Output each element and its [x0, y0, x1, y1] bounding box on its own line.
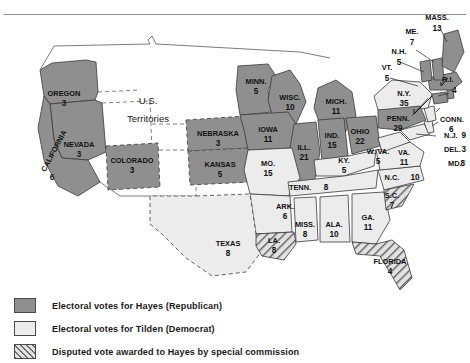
state-maine: [442, 30, 464, 72]
label-arkansas-name: ARK.: [276, 202, 294, 211]
label-connecticut-votes: 6: [449, 125, 454, 134]
label-tennessee-name: TENN.: [289, 183, 311, 192]
label-arkansas-votes: 6: [283, 212, 288, 221]
label-vermont-name: VT.: [382, 63, 393, 72]
label-michigan-name: MICH.: [326, 97, 347, 106]
label-missouri-votes: 15: [263, 169, 273, 178]
label-pennsylvania-name: PENN.: [387, 114, 410, 123]
legend-swatch-disputed: [14, 344, 36, 359]
territories-annotation: U.S. Territories: [127, 95, 169, 124]
label-colorado-votes: 3: [130, 166, 135, 175]
label-rhode-island-name: R.I.: [442, 75, 454, 84]
legend-row-hayes: Electoral votes for Hayes (Republican): [14, 296, 454, 315]
label-nebraska-votes: 3: [216, 139, 221, 148]
label-massachusetts-votes: 13: [432, 24, 442, 33]
label-iowa-votes: 11: [264, 135, 273, 144]
label-iowa-name: IOWA: [258, 125, 278, 134]
label-vermont-votes: 5: [385, 74, 390, 83]
label-louisiana-name: LA.: [268, 236, 280, 245]
label-delaware-name: DEL.: [444, 145, 461, 154]
label-nevada-votes: 3: [77, 150, 82, 159]
label-wisconsin-votes: 10: [285, 103, 295, 112]
label-maryland-votes: 8: [460, 159, 465, 168]
legend-label-disputed: Disputed vote awarded to Hayes by specia…: [52, 347, 299, 357]
territories-line1: U.S.: [139, 95, 158, 106]
label-georgia-name: GA.: [361, 213, 374, 222]
territories-line2: Territories: [127, 113, 169, 124]
label-alabama-votes: 10: [329, 230, 339, 239]
label-wisconsin-name: WISC.: [279, 93, 300, 102]
label-maine-votes: 7: [410, 38, 415, 47]
label-virginia-votes: 11: [400, 158, 409, 167]
label-new-york-name: N.Y.: [397, 89, 411, 98]
label-virginia-name: VA.: [398, 148, 410, 157]
map-legend: Electoral votes for Hayes (Republican) E…: [14, 296, 454, 363]
label-indiana-votes: 15: [327, 141, 337, 150]
label-nebraska-name: NEBRASKA: [197, 129, 240, 138]
label-kentucky-name: KY.: [338, 156, 350, 165]
label-delaware-votes: 3: [461, 145, 466, 154]
label-oregon-votes: 3: [62, 99, 67, 108]
label-indiana-name: IND.: [325, 131, 340, 140]
label-louisiana-votes: 8: [272, 246, 277, 255]
label-kentucky-votes: 5: [342, 166, 347, 175]
label-connecticut-name: CONN.: [440, 115, 464, 124]
legend-label-tilden: Electoral votes for Tilden (Democrat): [52, 324, 215, 334]
label-massachusetts-name: MASS.: [425, 13, 448, 22]
legend-row-disputed: Disputed vote awarded to Hayes by specia…: [14, 342, 454, 361]
label-rhode-island-votes: 4: [452, 86, 457, 95]
label-florida-name: FLORIDA: [374, 257, 408, 266]
legend-row-tilden: Electoral votes for Tilden (Democrat): [14, 319, 454, 338]
label-minnesota-name: MINN.: [246, 77, 267, 86]
label-west-virginia-votes: 5: [376, 157, 381, 166]
label-ohio-name: OHIO: [351, 127, 370, 136]
legend-swatch-hayes: [14, 298, 36, 313]
label-illinois-name: ILL.: [297, 143, 310, 152]
label-mississippi-name: MISS.: [295, 220, 315, 229]
label-new-york-votes: 35: [399, 99, 409, 108]
label-pennsylvania-votes: 29: [393, 124, 403, 133]
label-oregon-name: OREGON: [48, 89, 81, 98]
label-south-carolina-name: S.C.: [385, 191, 399, 200]
label-maine-name: ME.: [405, 27, 418, 36]
label-missouri-name: MO.: [261, 159, 275, 168]
label-mississippi-votes: 8: [303, 230, 308, 239]
label-california-votes: 6: [50, 173, 55, 182]
label-west-virginia-name: W. VA.: [367, 147, 389, 156]
label-texas-name: TEXAS: [216, 239, 241, 248]
label-alabama-name: ALA.: [325, 220, 342, 229]
legend-swatch-tilden: [14, 321, 36, 336]
label-colorado-name: COLORADO: [110, 156, 153, 165]
label-tennessee-votes: 8: [324, 183, 329, 192]
label-nevada-name: NEVADA: [64, 140, 95, 149]
label-georgia-votes: 11: [364, 223, 373, 232]
label-new-jersey-votes: 9: [461, 131, 466, 140]
label-north-carolina-votes: 10: [410, 173, 420, 182]
label-north-carolina-name: N.C.: [385, 173, 400, 182]
label-texas-votes: 8: [226, 249, 231, 258]
label-ohio-votes: 22: [355, 137, 365, 146]
state-texas: [150, 194, 264, 276]
label-illinois-votes: 21: [299, 153, 309, 162]
legend-label-hayes: Electoral votes for Hayes (Republican): [52, 301, 222, 311]
label-new-hampshire-name: N.H.: [392, 47, 407, 56]
label-new-hampshire-votes: 5: [397, 58, 402, 67]
label-south-carolina-votes: 7: [390, 201, 395, 210]
label-florida-votes: 4: [388, 267, 393, 276]
label-kansas-votes: 5: [218, 170, 223, 179]
label-minnesota-votes: 5: [254, 87, 259, 96]
label-kansas-name: KANSAS: [204, 160, 235, 169]
label-michigan-votes: 11: [332, 107, 341, 116]
